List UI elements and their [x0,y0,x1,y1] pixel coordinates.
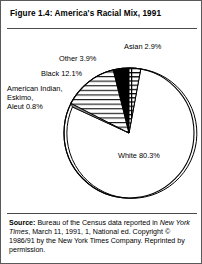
pie-chart-svg [1,30,202,212]
source-divider [7,213,197,214]
source-note: Source: Bureau of the Census data report… [9,219,197,255]
source-text-part-1: Bureau of the Census data reported in [35,219,159,227]
pie-label-american-indian-line-1: American Indian, [7,84,62,93]
pie-label-american-indian-line-2: Eskimo, [7,93,62,102]
pie-chart-area: Asian 2.9% Other 3.9% Black 12.1% Americ… [1,30,202,212]
pie-label-other: Other 3.9% [59,54,96,63]
pie-label-american-indian-eskimo-aleut: American Indian, Eskimo, Aleut 0.8% [7,84,62,112]
pie-label-asian: Asian 2.9% [124,42,161,51]
figure-title-bar: Figure 1.4: America's Racial Mix, 1991 [1,1,202,30]
title-divider [7,28,197,29]
pie-label-white: White 80.3% [118,151,160,160]
page-title: Figure 1.4: America's Racial Mix, 1991 [10,9,161,18]
source-text-part-2: , March 11, 1991, 1, National ed. Copyri… [9,228,185,254]
figure-card: Figure 1.4: America's Racial Mix, 1991 [0,0,202,264]
pie-label-american-indian-line-3: Aleut 0.8% [7,102,62,111]
pie-label-black: Black 12.1% [41,69,82,78]
source-label: Source: [9,219,35,227]
